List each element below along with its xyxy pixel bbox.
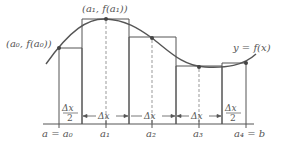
half-width-denominator-right: 2 <box>230 113 236 123</box>
arrowhead-1-left <box>83 115 87 118</box>
arrowhead-3-right <box>217 115 221 118</box>
delta-x-labels: Δx 2 Δx Δx Δx Δx 2 <box>61 103 241 123</box>
riemann-sum-diagram: (a₀, f(a₀)) (a₁, f(a₁)) y = f(x) Δx 2 Δx… <box>0 0 281 147</box>
point-a2 <box>150 36 154 40</box>
label-curve: y = f(x) <box>232 42 271 53</box>
axis-label-a3: a₃ <box>193 128 203 139</box>
function-curve <box>46 19 256 67</box>
axis-label-a1: a₁ <box>100 128 110 139</box>
axis-label-a4: a₄ = b <box>234 128 265 139</box>
label-point-a1: (a₁, f(a₁)) <box>82 3 128 14</box>
arrowhead-1-right <box>124 115 128 118</box>
half-width-denominator-left: 2 <box>67 113 73 123</box>
width-label-3: Δx <box>190 111 203 121</box>
point-a0 <box>57 46 61 50</box>
axis-label-a2: a₂ <box>146 128 156 139</box>
point-a1 <box>104 17 108 21</box>
axis-label-a0: a = a₀ <box>42 128 73 139</box>
half-width-numerator-right: Δx <box>224 103 237 113</box>
label-point-a0: (a₀, f(a₀)) <box>6 38 52 49</box>
width-label-2: Δx <box>143 111 156 121</box>
point-a4 <box>244 61 248 65</box>
width-label-1: Δx <box>97 111 110 121</box>
half-width-numerator-left: Δx <box>61 103 74 113</box>
arrowhead-3-left <box>177 115 181 118</box>
axis-labels: a = a₀ a₁ a₂ a₃ a₄ = b <box>42 128 265 139</box>
arrowhead-2-right <box>171 115 175 118</box>
point-a3 <box>197 65 201 69</box>
